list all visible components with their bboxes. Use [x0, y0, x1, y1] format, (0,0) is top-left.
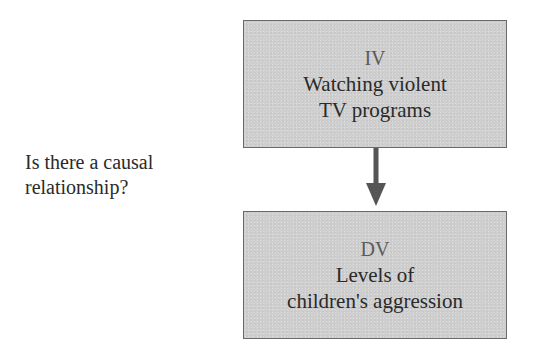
iv-label-line-1: Watching violent	[303, 71, 447, 97]
dv-label-line-1: Levels of	[336, 262, 415, 288]
dv-label-line-2: children's aggression	[287, 288, 463, 314]
causal-arrow-icon	[366, 148, 386, 208]
iv-label-line-2: TV programs	[319, 97, 431, 123]
question-line-1: Is there a causal	[25, 150, 153, 175]
causal-question-label: Is there a causal relationship?	[25, 150, 153, 200]
dependent-variable-box: DV Levels of children's aggression	[243, 211, 507, 339]
iv-tag: IV	[364, 45, 385, 71]
question-line-2: relationship?	[25, 175, 153, 200]
dv-tag: DV	[361, 236, 390, 262]
independent-variable-box: IV Watching violent TV programs	[243, 20, 507, 148]
